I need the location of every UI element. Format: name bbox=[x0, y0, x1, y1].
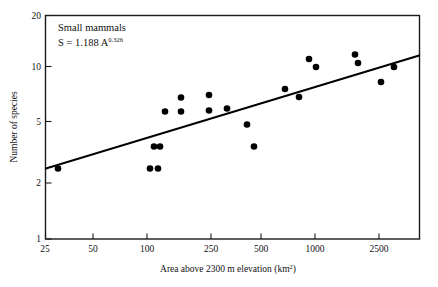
data-point bbox=[55, 165, 62, 172]
data-point bbox=[157, 143, 164, 150]
annotation-title: Small mammals bbox=[58, 22, 126, 33]
x-tick-label-50: 50 bbox=[88, 244, 98, 254]
data-point bbox=[378, 79, 385, 86]
x-tick-label-250: 250 bbox=[204, 244, 219, 254]
data-point bbox=[178, 108, 185, 115]
data-point bbox=[206, 107, 213, 114]
x-tick-label-500: 500 bbox=[254, 244, 269, 254]
x-tick-label-25: 25 bbox=[40, 244, 50, 254]
data-point bbox=[391, 64, 398, 71]
data-point bbox=[306, 56, 313, 63]
data-point bbox=[352, 51, 359, 58]
x-tick-label-100: 100 bbox=[140, 244, 155, 254]
y-tick-label-20: 20 bbox=[32, 11, 42, 21]
x-tick-label-1000: 1000 bbox=[306, 244, 325, 254]
data-point bbox=[206, 92, 213, 99]
y-axis-title: Number of species bbox=[9, 91, 19, 163]
svg-text:Area above 2300 m elevation (k: Area above 2300 m elevation (km2) bbox=[160, 263, 296, 276]
y-tick-label-1: 1 bbox=[36, 234, 41, 244]
x-axis-title-tail: ) bbox=[293, 264, 296, 275]
data-point bbox=[244, 121, 251, 128]
data-point bbox=[296, 94, 303, 101]
data-point bbox=[355, 60, 362, 67]
data-point bbox=[162, 108, 169, 115]
data-point bbox=[178, 94, 185, 101]
data-point bbox=[224, 105, 231, 112]
x-axis-title-main: Area above 2300 m elevation (km bbox=[160, 264, 290, 275]
chart-svg: 20 10 5 2 1 25 50 100 250 500 1000 2500 … bbox=[0, 0, 438, 287]
data-point bbox=[251, 143, 258, 150]
equation-exponent: 0.326 bbox=[108, 36, 123, 43]
x-tick-label-2500: 2500 bbox=[370, 244, 389, 254]
y-tick-label-5: 5 bbox=[36, 117, 41, 127]
data-point bbox=[282, 86, 289, 93]
data-point bbox=[151, 143, 158, 150]
x-axis-title: Area above 2300 m elevation (km2) bbox=[160, 263, 296, 276]
y-tick-label-10: 10 bbox=[32, 62, 42, 72]
data-point bbox=[155, 165, 162, 172]
y-tick-label-2: 2 bbox=[36, 178, 41, 188]
equation-body: S = 1.188 A bbox=[58, 37, 109, 48]
chart-figure: 20 10 5 2 1 25 50 100 250 500 1000 2500 … bbox=[0, 0, 438, 287]
data-point bbox=[313, 64, 320, 71]
data-point bbox=[147, 165, 154, 172]
